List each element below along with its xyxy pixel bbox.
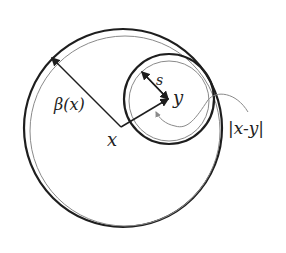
distance-label: |x-y| [228,118,264,138]
small-ball [124,54,214,144]
y-label: y [172,87,184,108]
s-label: s [156,72,163,88]
diagram-canvas: β(x) x y s |x-y| [0,0,286,253]
s-radius-line-back [142,72,168,99]
x-label: x [107,129,117,150]
small-circle-inner [129,61,209,141]
beta-label: β(x) [53,95,85,114]
x-to-y-line [121,99,168,127]
beta-radius-line [52,58,121,127]
small-circle-outer [124,54,214,144]
